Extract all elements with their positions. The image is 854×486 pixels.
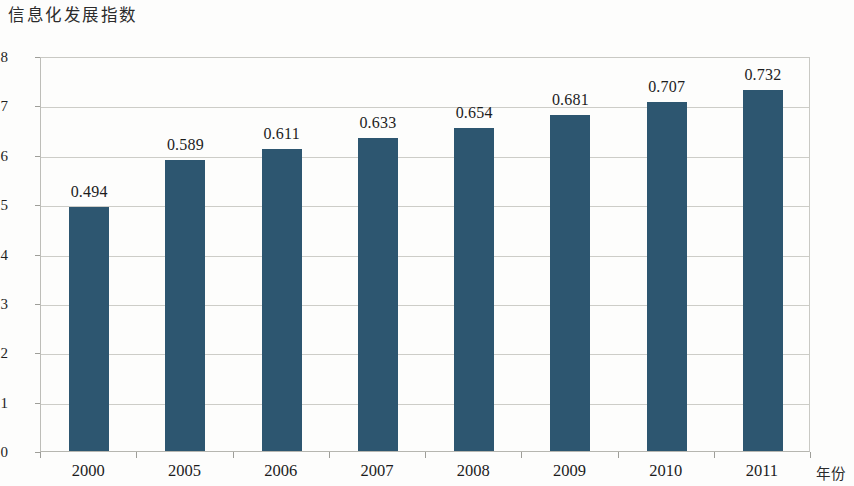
y-tick-label: 0 bbox=[0, 444, 8, 461]
x-tick-mark bbox=[329, 452, 330, 458]
y-tick-mark bbox=[35, 304, 40, 305]
x-tick-label-2009: 2009 bbox=[553, 461, 586, 481]
bar-2000[interactable] bbox=[69, 207, 109, 451]
chart-page: 信息化发展指数 0.4940.5890.6110.6330.6540.6810.… bbox=[0, 0, 854, 486]
bar-value-label: 0.589 bbox=[167, 136, 204, 154]
x-axis: 20002005200620072008200920102011 bbox=[40, 452, 810, 486]
x-tick-label-2008: 2008 bbox=[457, 461, 490, 481]
bar-2008[interactable] bbox=[454, 128, 494, 451]
bar-group[interactable]: 0.494 bbox=[69, 56, 109, 451]
x-tick-mark bbox=[618, 452, 619, 458]
x-tick-label-2010: 2010 bbox=[649, 461, 682, 481]
x-tick-label-2006: 2006 bbox=[264, 461, 297, 481]
bar-value-label: 0.732 bbox=[744, 66, 781, 84]
x-tick-mark bbox=[40, 452, 41, 458]
bar-2006[interactable] bbox=[262, 149, 302, 451]
x-tick-label-2005: 2005 bbox=[168, 461, 201, 481]
y-tick-mark bbox=[35, 255, 40, 256]
chart-title: 信息化发展指数 bbox=[8, 2, 138, 26]
y-tick-label: 0.3 bbox=[0, 295, 8, 312]
x-tick-mark bbox=[714, 452, 715, 458]
x-tick-label-2011: 2011 bbox=[746, 461, 778, 481]
x-tick-label-2000: 2000 bbox=[72, 461, 105, 481]
bar-group[interactable]: 0.681 bbox=[550, 56, 590, 451]
x-tick-mark bbox=[810, 452, 811, 458]
x-tick-mark bbox=[425, 452, 426, 458]
x-tick-label-2007: 2007 bbox=[360, 461, 393, 481]
bar-2011[interactable] bbox=[743, 90, 783, 451]
x-tick-mark bbox=[233, 452, 234, 458]
y-tick-mark bbox=[35, 205, 40, 206]
y-tick-mark bbox=[35, 57, 40, 58]
bar-group[interactable]: 0.732 bbox=[743, 56, 783, 451]
x-axis-title: 年份 bbox=[816, 462, 846, 483]
bar-group[interactable]: 0.707 bbox=[647, 56, 687, 451]
bar-value-label: 0.633 bbox=[359, 114, 396, 132]
plot-area: 0.4940.5890.6110.6330.6540.6810.7070.732 bbox=[40, 57, 810, 452]
bar-group[interactable]: 0.633 bbox=[358, 56, 398, 451]
y-tick-mark bbox=[35, 353, 40, 354]
y-tick-label: 0.4 bbox=[0, 246, 8, 263]
bar-group[interactable]: 0.654 bbox=[454, 56, 494, 451]
bar-value-label: 0.681 bbox=[552, 91, 589, 109]
bar-2005[interactable] bbox=[165, 160, 205, 451]
bar-value-label: 0.611 bbox=[263, 125, 299, 143]
y-tick-label: 0.8 bbox=[0, 49, 8, 66]
bar-2010[interactable] bbox=[647, 102, 687, 451]
y-tick-label: 0.1 bbox=[0, 394, 8, 411]
bar-2007[interactable] bbox=[358, 138, 398, 451]
bar-group[interactable]: 0.589 bbox=[165, 56, 205, 451]
y-tick-mark bbox=[35, 106, 40, 107]
x-tick-mark bbox=[136, 452, 137, 458]
y-tick-mark bbox=[35, 156, 40, 157]
y-tick-mark bbox=[35, 403, 40, 404]
bar-value-label: 0.494 bbox=[71, 183, 108, 201]
y-tick-label: 0.5 bbox=[0, 197, 8, 214]
y-tick-label: 0.6 bbox=[0, 147, 8, 164]
bars-layer: 0.4940.5890.6110.6330.6540.6810.7070.732 bbox=[41, 58, 809, 451]
bar-value-label: 0.654 bbox=[456, 104, 493, 122]
y-tick-label: 0.2 bbox=[0, 345, 8, 362]
bar-2009[interactable] bbox=[550, 115, 590, 451]
bar-group[interactable]: 0.611 bbox=[262, 56, 302, 451]
y-tick-label: 0.7 bbox=[0, 98, 8, 115]
bar-value-label: 0.707 bbox=[648, 78, 685, 96]
x-tick-mark bbox=[521, 452, 522, 458]
